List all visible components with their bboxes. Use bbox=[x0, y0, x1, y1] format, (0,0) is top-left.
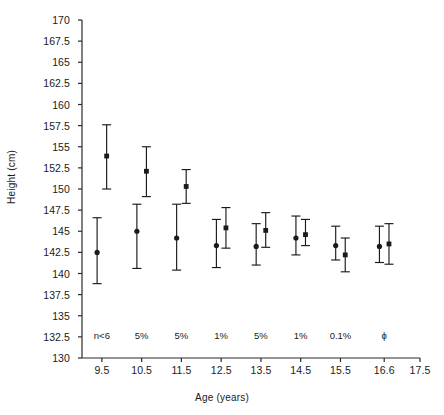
data-point-circle bbox=[377, 244, 382, 249]
data-point-circle bbox=[174, 235, 179, 240]
data-point-square bbox=[343, 253, 348, 258]
data-point-circle bbox=[134, 229, 139, 234]
data-point-circle bbox=[293, 235, 298, 240]
data-point-square bbox=[224, 225, 229, 230]
data-point-square bbox=[104, 154, 109, 159]
data-point-square bbox=[144, 169, 149, 174]
series-filled-circle bbox=[93, 204, 384, 283]
chart-plot-area: Height (cm) Age (years) 130132.5135137.5… bbox=[0, 0, 444, 415]
data-point-square bbox=[184, 184, 189, 189]
data-point-square bbox=[263, 228, 268, 233]
data-point-circle bbox=[214, 243, 219, 248]
series-filled-square bbox=[102, 125, 393, 272]
data-point-circle bbox=[254, 244, 259, 249]
data-point-square bbox=[303, 232, 308, 237]
data-point-square bbox=[387, 242, 392, 247]
data-point-circle bbox=[333, 243, 338, 248]
data-point-circle bbox=[95, 250, 100, 255]
chart-canvas bbox=[0, 0, 444, 415]
